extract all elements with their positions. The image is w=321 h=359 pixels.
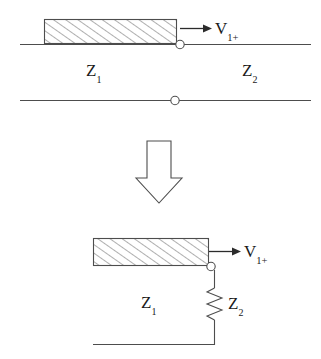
bottom-impedance-load-sub: 2	[238, 307, 243, 318]
top-diagram-group	[20, 20, 311, 105]
bottom-impedance-line-sub: 1	[151, 306, 156, 317]
top-hatched-block	[45, 20, 177, 44]
top-impedance-left-sub: 1	[96, 74, 101, 85]
top-impedance-right-label: Z2	[242, 62, 257, 82]
bottom-voltage-arrow-head	[232, 248, 241, 256]
bottom-impedance-load-base: Z	[228, 294, 238, 313]
top-impedance-right-sub: 2	[252, 74, 257, 85]
top-voltage-label: V1+	[215, 20, 238, 41]
bottom-voltage-label-base: V	[244, 242, 256, 261]
top-impedance-left-base: Z	[86, 61, 96, 80]
top-voltage-label-sub: 1+	[227, 32, 238, 43]
bottom-impedance-load-label: Z2	[228, 295, 243, 315]
bottom-voltage-label-sub: 1+	[256, 255, 267, 266]
top-voltage-arrow-head	[203, 25, 212, 33]
bottom-terminal-node	[207, 262, 215, 270]
bottom-diagram-group	[93, 239, 241, 345]
bottom-hatched-block	[94, 239, 209, 266]
bottom-voltage-label: V1+	[244, 243, 267, 264]
top-voltage-label-base: V	[215, 19, 227, 38]
top-impedance-right-base: Z	[242, 61, 252, 80]
circuit-diagram-svg	[0, 0, 321, 359]
bottom-impedance-line-base: Z	[141, 293, 151, 312]
load-resistor-zigzag	[207, 288, 222, 320]
figure-canvas: V1+ Z1 Z2 V1+ Z1 Z2	[0, 0, 321, 359]
transition-arrow-group	[136, 141, 182, 203]
down-block-arrow	[136, 141, 182, 203]
bottom-return-wire	[93, 320, 215, 345]
top-impedance-left-label: Z1	[86, 62, 101, 82]
bottom-impedance-line-label: Z1	[141, 294, 156, 314]
top-lower-terminal-node	[171, 96, 179, 104]
top-upper-terminal-node	[176, 40, 184, 48]
